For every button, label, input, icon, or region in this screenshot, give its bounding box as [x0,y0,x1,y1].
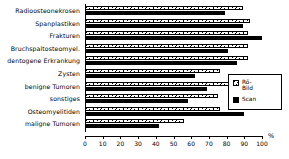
bar-scan [85,49,228,53]
bar-r-bild [85,19,250,23]
bar-group [85,119,262,131]
bar-scan [85,61,237,65]
category-label: Frakturen [0,32,80,39]
x-tick-label: 80 [223,140,231,147]
legend-item-ro-bild: Rö- Bild [233,79,253,91]
x-tick [138,136,139,139]
x-tick [174,136,175,139]
x-axis-unit-label: % [268,132,274,140]
bar-scan [85,124,159,128]
bar-group [85,56,262,68]
x-tick-label: 30 [134,140,142,147]
x-tick-label: 10 [99,140,107,147]
x-tick [191,136,192,139]
bar-r-bild [85,44,248,48]
legend-label: Rö- Bild [242,79,253,91]
bar-r-bild [85,119,184,123]
bar-group [85,44,262,56]
hatched-swatch-icon [233,80,239,86]
category-label: sonstiges [0,95,80,102]
category-label: Spanplastiken [0,20,80,27]
x-tick-label: 0 [83,140,87,147]
category-label: Radioosteonekrosen [0,7,80,14]
x-tick-label: 60 [187,140,195,147]
bar-scan [85,99,188,103]
bar-group [85,19,262,31]
bar-group [85,31,262,43]
bar-r-bild [85,107,220,111]
bar-scan [85,87,207,91]
bar-r-bild [85,94,218,98]
bar-scan [85,36,262,40]
category-label: Osteomyelitiden [0,108,80,115]
x-tick-label: 90 [240,140,248,147]
x-tick [156,136,157,139]
x-tick-label: 100 [256,140,267,147]
bar-r-bild [85,56,248,60]
category-label: dentogene Erkrankung [0,57,80,64]
x-tick [262,136,263,139]
category-labels: RadioosteonekrosenSpanplastikenFrakturen… [0,0,80,132]
x-tick-label: 40 [152,140,160,147]
plot-area [85,4,262,132]
bar-group [85,6,262,18]
x-tick-label: 50 [170,140,178,147]
solid-black-swatch-icon [233,97,239,103]
bar-r-bild [85,69,220,73]
bar-r-bild [85,31,248,35]
bar-scan [85,11,225,15]
x-tick [120,136,121,139]
x-tick [244,136,245,139]
x-tick [227,136,228,139]
category-label: benigne Tumoren [0,83,80,90]
legend-item-scan: Scan [233,96,256,103]
category-label: Bruchspaltosteomyel. [0,45,80,52]
category-label: maligne Tumoren [0,120,80,127]
x-tick [103,136,104,139]
bar-scan [85,112,244,116]
bar-r-bild [85,82,232,86]
bar-scan [85,24,243,28]
bar-scan [85,74,195,78]
legend-label: Scan [242,96,256,102]
bar-r-bild [85,6,243,10]
category-label: Zysten [0,70,80,77]
x-axis-line: 0102030405060708090100 [85,136,262,137]
horizontal-bar-chart: RadioosteonekrosenSpanplastikenFrakturen… [0,0,289,159]
x-tick [209,136,210,139]
x-tick-label: 20 [117,140,125,147]
chart-legend: Rö- Bild Scan [228,74,282,110]
x-tick [85,136,86,139]
x-tick-label: 70 [205,140,213,147]
